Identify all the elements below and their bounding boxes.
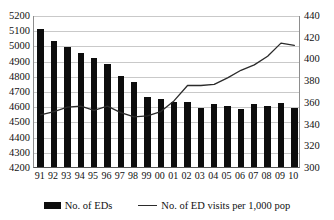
x-axis-tick-label: 08 [260, 170, 273, 182]
x-axis-tick-label: 92 [46, 170, 59, 182]
x-axis-tick-label: 91 [33, 170, 46, 182]
left-axis-tick-label: 4800 [9, 72, 30, 83]
left-axis-tick-label: 5200 [9, 11, 30, 22]
left-axis-tick-label: 4400 [9, 133, 30, 144]
left-axis-tick-label: 4700 [9, 87, 30, 98]
left-axis-tick-label: 5100 [9, 26, 30, 37]
left-axis-tick-label: 4900 [9, 57, 30, 68]
left-axis-tick-label: 5000 [9, 41, 30, 52]
legend-bar-swatch-icon [44, 202, 61, 209]
legend-item-ed-visits: No. of ED visits per 1,000 pop [138, 200, 290, 211]
legend-label-ed-visits: No. of ED visits per 1,000 pop [161, 200, 290, 211]
x-axis-tick-label: 99 [140, 170, 153, 182]
left-axis-tick-label: 4200 [9, 163, 30, 174]
left-axis-tick-label: 4500 [9, 117, 30, 128]
right-axis-tick-label: 400 [304, 54, 320, 65]
right-axis-tick-label: 380 [304, 76, 320, 87]
right-axis-tick-label: 440 [304, 11, 320, 22]
right-axis-tick-label: 340 [304, 120, 320, 131]
x-axis-tick-label: 93 [60, 170, 73, 182]
x-axis-tick-label: 98 [126, 170, 139, 182]
right-axis-tick-label: 300 [304, 163, 320, 174]
x-axis-tick-label: 03 [193, 170, 206, 182]
x-axis-tick-label: 05 [220, 170, 233, 182]
left-axis-tick-label: 4300 [9, 148, 30, 159]
left-axis: 4200430044004500460047004800490050005100… [0, 0, 30, 220]
x-axis-tick-label: 00 [153, 170, 166, 182]
legend-label-no-of-eds: No. of EDs [65, 200, 113, 211]
legend-item-no-of-eds: No. of EDs [44, 200, 113, 211]
x-axis-tick-label: 97 [113, 170, 126, 182]
x-axis-tick-label: 94 [73, 170, 86, 182]
x-axis-tick-label: 09 [273, 170, 286, 182]
x-axis-tick-label: 07 [247, 170, 260, 182]
right-axis: 300320340360380400420440 [304, 0, 334, 220]
chart-container: 4200430044004500460047004800490050005100… [0, 0, 334, 220]
x-axis-tick-label: 06 [233, 170, 246, 182]
x-axis-tick-label: 01 [167, 170, 180, 182]
x-axis-tick-label: 96 [100, 170, 113, 182]
x-axis-tick-label: 10 [287, 170, 300, 182]
x-axis-tick-label: 04 [207, 170, 220, 182]
right-axis-tick-label: 320 [304, 141, 320, 152]
right-axis-tick-label: 420 [304, 33, 320, 44]
legend-line-swatch-icon [138, 205, 157, 206]
x-axis-tick-label: 02 [180, 170, 193, 182]
plot-area [33, 16, 300, 168]
right-axis-tick-label: 360 [304, 98, 320, 109]
left-axis-tick-label: 4600 [9, 102, 30, 113]
line-series-ed-visits-per-1000-pop [34, 16, 299, 167]
chart-legend: No. of EDs No. of ED visits per 1,000 po… [0, 196, 334, 214]
x-axis-tick-labels: 9192939495969798990001020304050607080910 [33, 170, 300, 186]
line-path-svg [34, 16, 301, 168]
x-axis-tick-label: 95 [86, 170, 99, 182]
